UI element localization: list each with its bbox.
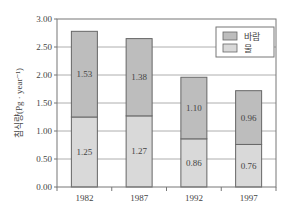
legend-label: 물 bbox=[244, 44, 252, 54]
bar-value-label: 0.96 bbox=[241, 113, 257, 123]
bar-value-label: 0.86 bbox=[186, 158, 202, 168]
x-tick-label: 1997 bbox=[240, 193, 259, 203]
stacked-bar-chart: 1.251.531.271.380.861.100.760.96 0.000.5… bbox=[0, 0, 292, 213]
bar-value-label: 1.53 bbox=[77, 69, 93, 79]
bar-value-label: 1.27 bbox=[131, 146, 147, 156]
x-tick-label: 1992 bbox=[185, 193, 203, 203]
bar-value-label: 1.25 bbox=[77, 147, 93, 157]
y-tick-label: 0.50 bbox=[36, 154, 52, 164]
y-tick-label: 0.00 bbox=[36, 182, 52, 192]
legend-swatch bbox=[223, 32, 237, 40]
bar-1992: 0.861.10 bbox=[181, 77, 207, 187]
x-axis: 1982198719921997 bbox=[57, 187, 276, 203]
legend-label: 바람 bbox=[244, 31, 260, 42]
bar-1987: 1.271.38 bbox=[126, 39, 152, 187]
y-tick-label: 3.00 bbox=[36, 14, 52, 24]
y-tick-label: 2.50 bbox=[36, 42, 52, 52]
y-tick-label: 1.00 bbox=[36, 126, 52, 136]
y-axis-label: 침식량(Pg · year⁻¹) bbox=[13, 68, 24, 138]
y-tick-label: 1.50 bbox=[36, 98, 52, 108]
bar-1997: 0.760.96 bbox=[236, 91, 262, 187]
bar-value-label: 1.10 bbox=[186, 103, 202, 113]
bar-1982: 1.251.53 bbox=[71, 31, 97, 187]
legend: 바람물 bbox=[216, 27, 274, 57]
x-tick-label: 1982 bbox=[75, 193, 93, 203]
bar-value-label: 0.76 bbox=[241, 161, 257, 171]
y-axis: 0.000.501.001.502.002.503.00 bbox=[36, 14, 57, 192]
y-tick-label: 2.00 bbox=[36, 70, 52, 80]
bar-value-label: 1.38 bbox=[131, 72, 147, 82]
legend-swatch bbox=[223, 44, 237, 52]
x-tick-label: 1987 bbox=[130, 193, 149, 203]
